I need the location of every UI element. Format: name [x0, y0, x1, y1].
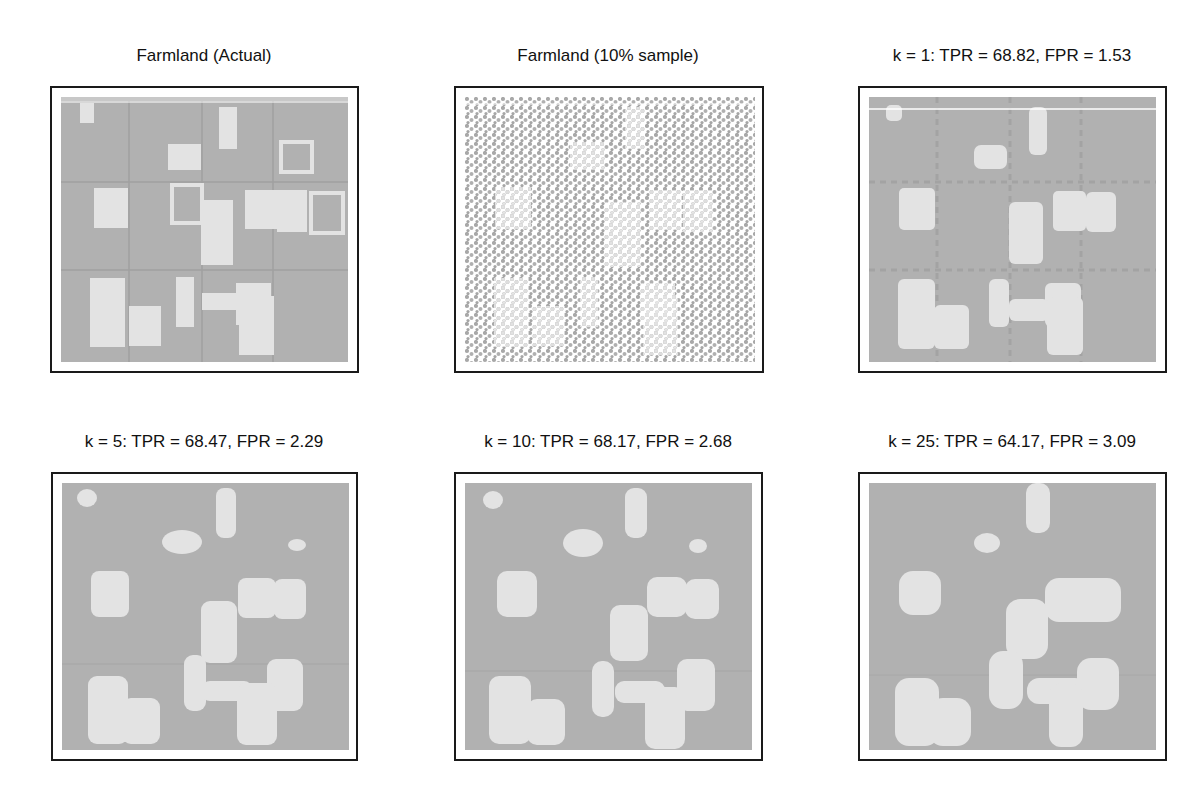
prediction-k1-map [869, 97, 1156, 362]
panel-title-k1: k = 1: TPR = 68.82, FPR = 1.53 [812, 46, 1202, 66]
panel-k25 [858, 472, 1167, 761]
panel-title-k10: k = 10: TPR = 68.17, FPR = 2.68 [408, 432, 808, 452]
prediction-k5-map [62, 483, 349, 750]
farmland-actual-map [61, 97, 348, 362]
panel-k10 [454, 472, 763, 761]
panel-title-actual: Farmland (Actual) [4, 46, 404, 66]
panel-k1 [858, 86, 1167, 373]
panel-title-k25: k = 25: TPR = 64.17, FPR = 3.09 [812, 432, 1202, 452]
prediction-k25-map [869, 483, 1156, 750]
prediction-k10-map [465, 483, 752, 750]
panel-sample [454, 86, 764, 373]
panel-actual [50, 86, 359, 373]
farmland-sample-map [465, 97, 755, 362]
panel-title-k5: k = 5: TPR = 68.47, FPR = 2.29 [4, 432, 404, 452]
panel-title-sample: Farmland (10% sample) [408, 46, 808, 66]
panel-k5 [51, 472, 358, 761]
